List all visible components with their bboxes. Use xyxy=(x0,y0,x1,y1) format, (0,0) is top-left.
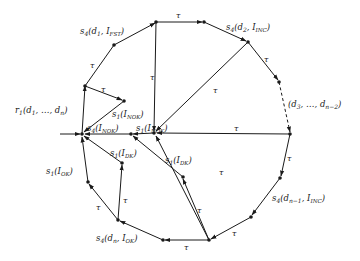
node-G xyxy=(277,80,281,84)
edge-J-to-K xyxy=(211,217,251,239)
edge-F-to-G xyxy=(248,42,278,80)
label-s4-fst: s4(d1, IFST) xyxy=(80,26,124,37)
edge-K-to-center xyxy=(156,136,209,240)
node-D xyxy=(154,20,158,24)
node-J xyxy=(249,215,253,219)
edge-H-to-center xyxy=(157,133,290,134)
node-A xyxy=(83,84,87,88)
node-C xyxy=(112,43,116,47)
edge-K-to-P xyxy=(183,179,209,240)
label-s4-nok: s4(INOK) xyxy=(87,123,119,134)
tau-H-I: τ xyxy=(287,154,292,163)
tau-D-center: τ xyxy=(150,73,155,82)
edge-O-to-hub xyxy=(82,137,88,182)
node-O xyxy=(86,180,90,184)
state-diagram: r1(d1, …, dn) s4(d1, IFST) s4(d2, IINC) … xyxy=(0,0,360,261)
node-H xyxy=(288,132,292,136)
edge-F-to-center xyxy=(156,42,248,131)
tau-F-G: τ xyxy=(264,55,269,64)
tau-J-K: τ xyxy=(232,229,237,238)
node-mid xyxy=(129,132,133,136)
node-N xyxy=(120,161,124,165)
tau-M-N: τ xyxy=(123,196,128,205)
tau-F-center: τ xyxy=(213,86,218,95)
tau-H-center: τ xyxy=(234,124,239,133)
label-s4-incn1: s4(dn−1, IINC) xyxy=(272,193,325,204)
edge-hub-to-A xyxy=(82,86,85,134)
label-s4-inc2: s4(d2, IINC) xyxy=(226,22,270,33)
node-P xyxy=(181,175,185,179)
label-r1: r1(d1, …, dn) xyxy=(15,105,67,116)
edge-M-to-N xyxy=(118,165,122,220)
label-s1-dk-left: s1(IDK) xyxy=(110,148,137,159)
node-B xyxy=(122,99,126,103)
label-s1-ok: s1(IOK) xyxy=(46,166,73,177)
node-hub xyxy=(80,132,84,136)
tau-D-E: τ xyxy=(176,11,181,20)
tau-A-C: τ xyxy=(90,61,95,70)
node-L xyxy=(161,238,165,242)
tau-K-L: τ xyxy=(184,243,189,252)
tau-K-center: τ xyxy=(219,168,224,177)
node-M xyxy=(116,218,120,222)
label-mid-dots: (d3, …, dn−2) xyxy=(288,99,341,110)
label-s1-nok-top: s1(INOK) xyxy=(112,109,144,120)
node-E xyxy=(202,20,206,24)
label-s1-dk-right: s1(IDK) xyxy=(165,155,192,166)
node-F xyxy=(246,40,250,44)
tau-M-O: τ xyxy=(96,203,101,212)
tau-A-B: τ xyxy=(101,85,106,94)
edge-M-to-O xyxy=(89,184,118,220)
label-s4-okn: s4(dn, IOK) xyxy=(96,233,138,244)
node-I xyxy=(278,176,282,180)
